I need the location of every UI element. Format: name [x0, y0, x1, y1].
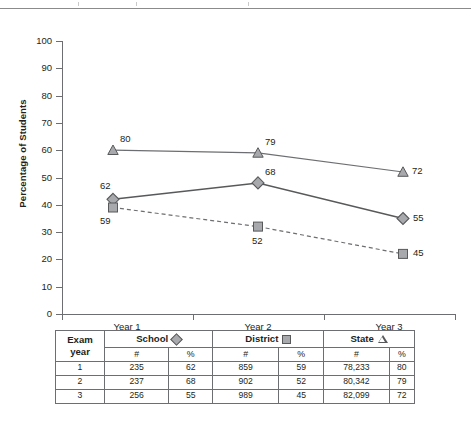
- cell-state-count: 78,233: [324, 362, 389, 376]
- table-subheader-district-pct: %: [279, 348, 324, 362]
- point-label-district-year-2: 52: [252, 236, 263, 246]
- marker-school-year-3: [397, 213, 409, 225]
- table-subheader-district-count: #: [213, 348, 279, 362]
- cell-state-pct: 72: [389, 389, 414, 403]
- cell-district-pct: 45: [279, 389, 324, 403]
- cell-state-pct: 80: [389, 362, 414, 376]
- table-row: 3 256 55 989 45 82,099 72: [56, 389, 415, 403]
- cell-state-count: 82,099: [324, 389, 389, 403]
- point-label-state-year-2: 79: [265, 137, 276, 147]
- point-label-district-year-3: 45: [413, 248, 424, 258]
- cell-district-pct: 52: [279, 376, 324, 390]
- point-label-state-year-3: 72: [412, 166, 423, 176]
- table-subheader-state-count: #: [324, 348, 389, 362]
- marker-district-year-2: [254, 222, 263, 231]
- plot-area: [0, 14, 471, 326]
- table-header-state: State: [324, 331, 415, 348]
- top-divider-tick: [136, 2, 137, 6]
- cell-school-pct: 55: [169, 389, 213, 403]
- table-header-exam-year: Exam year: [56, 331, 105, 362]
- chart-page: Percentage of Students 100 90 80 70 60 5…: [0, 0, 471, 427]
- cell-district-count: 902: [213, 376, 279, 390]
- cell-school-count: 235: [105, 362, 169, 376]
- table-header-row-groups: Exam year School District State: [56, 331, 415, 348]
- table-header-school: School: [105, 331, 213, 348]
- triangle-icon: [378, 335, 388, 343]
- line-chart: Percentage of Students 100 90 80 70 60 5…: [0, 14, 471, 326]
- table-row: 1 235 62 859 59 78,233 80: [56, 362, 415, 376]
- point-label-school-year-2: 68: [265, 167, 276, 177]
- table-header-district: District: [213, 331, 324, 348]
- cell-state-count: 80,342: [324, 376, 389, 390]
- table-row: 2 237 68 902 52 80,342 79: [56, 376, 415, 390]
- top-divider: [0, 8, 471, 9]
- cell-district-count: 859: [213, 362, 279, 376]
- cell-exam-year: 3: [56, 389, 105, 403]
- table-header-row-sub: # % # % # %: [56, 348, 415, 362]
- table-header-school-label: School: [136, 333, 168, 344]
- point-label-state-year-1: 80: [120, 134, 131, 144]
- top-divider-tick: [78, 2, 79, 6]
- table-subheader-school-count: #: [105, 348, 169, 362]
- cell-district-count: 989: [213, 389, 279, 403]
- cell-school-count: 256: [105, 389, 169, 403]
- point-label-district-year-1: 59: [100, 216, 111, 226]
- cell-school-pct: 62: [169, 362, 213, 376]
- cell-state-pct: 79: [389, 376, 414, 390]
- cell-school-pct: 68: [169, 376, 213, 390]
- table-subheader-state-pct: %: [389, 348, 414, 362]
- diamond-icon: [170, 333, 183, 346]
- table-header-state-label: State: [350, 333, 373, 344]
- cell-district-pct: 59: [279, 362, 324, 376]
- top-divider-tick: [248, 2, 249, 6]
- point-label-school-year-1: 62: [100, 181, 111, 191]
- cell-exam-year: 2: [56, 376, 105, 390]
- table-header-exam: Exam: [67, 334, 93, 345]
- marker-district-year-3: [399, 249, 408, 258]
- square-icon: [282, 335, 291, 344]
- marker-school-year-2: [252, 177, 264, 189]
- point-label-school-year-3: 55: [413, 213, 424, 223]
- cell-school-count: 237: [105, 376, 169, 390]
- cell-exam-year: 1: [56, 362, 105, 376]
- data-table: Exam year School District State # % # % …: [55, 330, 415, 404]
- table-subheader-school-pct: %: [169, 348, 213, 362]
- table-header-year: year: [70, 346, 90, 357]
- marker-district-year-1: [109, 203, 118, 212]
- table-header-district-label: District: [245, 333, 278, 344]
